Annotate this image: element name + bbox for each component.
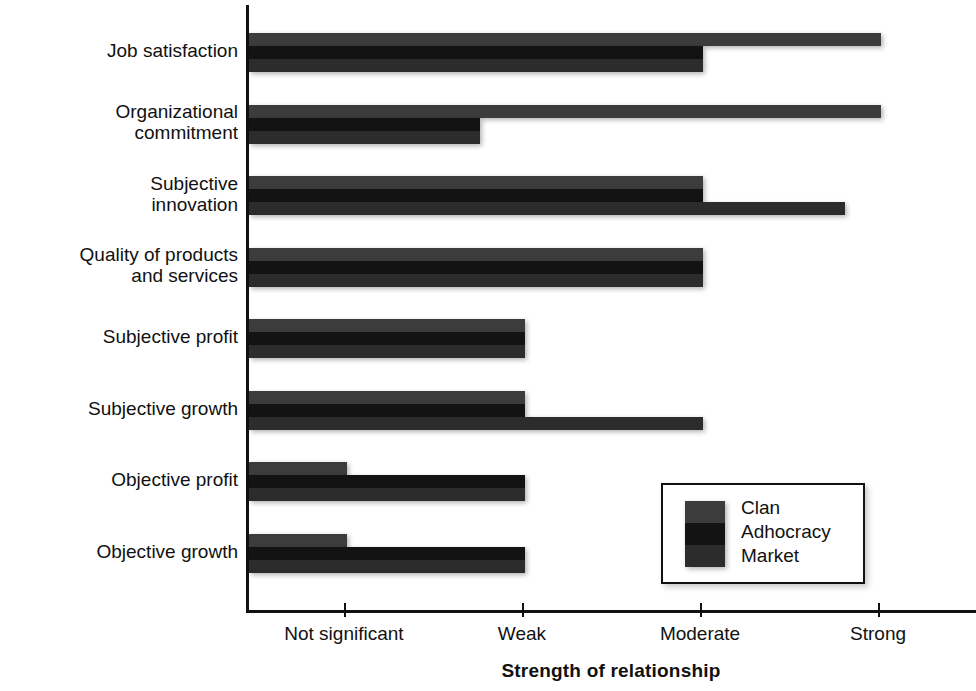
category-label-line: Subjective growth — [0, 398, 238, 419]
legend-swatch-stack — [685, 501, 725, 567]
bar — [249, 118, 480, 131]
category-label: Subjectiveinnovation — [0, 173, 238, 215]
bar — [249, 274, 703, 287]
y-axis-line — [246, 5, 249, 612]
legend-label: Market — [741, 544, 831, 568]
category-label-line: Organizational — [0, 101, 238, 122]
category-label: Subjective profit — [0, 326, 238, 347]
bar-group — [249, 391, 976, 430]
category-label: Job satisfaction — [0, 40, 238, 61]
x-axis-tick — [522, 603, 524, 617]
legend-swatch — [685, 545, 725, 567]
bar — [249, 462, 347, 475]
bar — [249, 33, 881, 46]
x-axis-line — [246, 610, 976, 613]
bar — [249, 319, 525, 332]
category-label-line: Subjective profit — [0, 326, 238, 347]
bar-group — [249, 462, 976, 501]
x-axis-title: Strength of relationship — [246, 660, 976, 682]
bar — [249, 332, 525, 345]
category-label-line: Quality of products — [0, 244, 238, 265]
bar-group — [249, 33, 976, 72]
bar — [249, 131, 480, 144]
bar — [249, 547, 525, 560]
x-axis-tick — [878, 603, 880, 617]
category-label-line: commitment — [0, 122, 238, 143]
bar — [249, 261, 703, 274]
bar — [249, 417, 703, 430]
legend: ClanAdhocracyMarket — [661, 483, 865, 584]
bar — [249, 202, 845, 215]
legend-swatch — [685, 523, 725, 545]
bar-group — [249, 534, 976, 573]
bar — [249, 475, 525, 488]
x-axis-tick-label: Strong — [850, 623, 906, 645]
category-label-line: innovation — [0, 194, 238, 215]
category-label: Subjective growth — [0, 398, 238, 419]
x-axis-tick-label: Not significant — [284, 623, 403, 645]
legend-swatch — [685, 501, 725, 523]
bar — [249, 488, 525, 501]
legend-label-stack: ClanAdhocracyMarket — [741, 496, 831, 568]
category-label-line: Job satisfaction — [0, 40, 238, 61]
bar — [249, 176, 703, 189]
category-label-line: Objective profit — [0, 469, 238, 490]
bar — [249, 404, 525, 417]
bar — [249, 105, 881, 118]
bar-chart: Variables Not significantWeakModerateStr… — [0, 0, 976, 691]
legend-label: Clan — [741, 496, 831, 520]
x-axis-tick — [700, 603, 702, 617]
bar-group — [249, 105, 976, 144]
category-label: Objective profit — [0, 469, 238, 490]
bar-group — [249, 176, 976, 215]
legend-label: Adhocracy — [741, 520, 831, 544]
plot-area: Not significantWeakModerateStrong Job sa… — [246, 5, 976, 612]
category-label-line: Objective growth — [0, 541, 238, 562]
x-axis-tick-label: Weak — [498, 623, 546, 645]
x-axis-tick — [344, 603, 346, 617]
bar — [249, 248, 703, 261]
bar — [249, 46, 703, 59]
bar — [249, 391, 525, 404]
bar-group — [249, 248, 976, 287]
bar-group — [249, 319, 976, 358]
x-axis-tick-label: Moderate — [660, 623, 740, 645]
category-label: Organizationalcommitment — [0, 101, 238, 143]
bar — [249, 59, 703, 72]
bar — [249, 345, 525, 358]
bar — [249, 189, 703, 202]
category-label: Quality of productsand services — [0, 244, 238, 286]
bar — [249, 560, 525, 573]
category-label: Objective growth — [0, 541, 238, 562]
bar — [249, 534, 347, 547]
category-label-line: and services — [0, 265, 238, 286]
category-label-line: Subjective — [0, 173, 238, 194]
